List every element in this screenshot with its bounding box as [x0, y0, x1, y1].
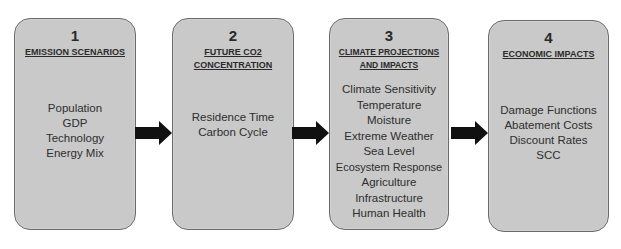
step-item: Residence Time	[173, 110, 293, 125]
step-item: Damage Functions	[489, 103, 608, 118]
step-title-line: Climate Projections	[330, 46, 448, 59]
step-box-climate-projections-and-impacts: 3 Climate Projections and Impacts Climat…	[329, 18, 449, 230]
right-arrow-icon	[135, 121, 172, 145]
step-item: Population	[15, 101, 135, 116]
step-item: Carbon Cycle	[173, 125, 293, 140]
step-item: Moisture	[330, 113, 448, 129]
right-arrow-icon	[292, 121, 329, 145]
step-item: Temperature	[330, 98, 448, 114]
step-item: Agriculture	[330, 175, 448, 191]
step-title: Economic Impacts	[489, 48, 608, 61]
step-number: 4	[489, 30, 608, 46]
step-title-line: Emission Scenarios	[15, 46, 135, 59]
step-box-economic-impacts: 4 Economic Impacts Damage Functions Abat…	[488, 20, 609, 232]
step-title: Future CO2 Concentration	[173, 46, 293, 72]
step-item: GDP	[15, 116, 135, 131]
step-item: Sea Level	[330, 144, 448, 160]
step-item: Technology	[15, 131, 135, 146]
step-items: Damage Functions Abatement Costs Discoun…	[489, 103, 608, 163]
step-items: Climate Sensitivity Temperature Moisture…	[330, 82, 448, 222]
step-items: Population GDP Technology Energy Mix	[15, 101, 135, 161]
step-item: Infrastructure	[330, 191, 448, 207]
step-number: 3	[330, 28, 448, 44]
step-item: Discount Rates	[489, 133, 608, 148]
step-box-emission-scenarios: 1 Emission Scenarios Population GDP Tech…	[14, 18, 136, 230]
step-item: Ecosystem Response	[330, 160, 448, 176]
step-number: 2	[173, 28, 293, 44]
step-title-line: Future CO2	[173, 46, 293, 59]
step-item: Extreme Weather	[330, 129, 448, 145]
step-title-line: Economic Impacts	[489, 48, 608, 61]
step-item: SCC	[489, 148, 608, 163]
step-title-line: and Impacts	[330, 59, 448, 72]
step-item: Energy Mix	[15, 146, 135, 161]
right-arrow-icon	[451, 121, 488, 145]
step-number: 1	[15, 28, 135, 44]
step-title: Climate Projections and Impacts	[330, 46, 448, 72]
step-box-future-co2-concentration: 2 Future CO2 Concentration Residence Tim…	[172, 18, 294, 230]
step-item: Abatement Costs	[489, 118, 608, 133]
step-item: Human Health	[330, 206, 448, 222]
step-item: Climate Sensitivity	[330, 82, 448, 98]
step-title: Emission Scenarios	[15, 46, 135, 59]
step-title-line: Concentration	[173, 59, 293, 72]
step-items: Residence Time Carbon Cycle	[173, 110, 293, 140]
